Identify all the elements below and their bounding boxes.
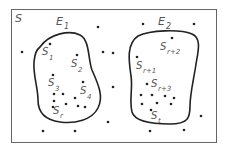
svg-text:r+1: r+1 bbox=[143, 67, 156, 75]
svg-text:r+2: r+2 bbox=[167, 48, 181, 56]
venn-diagram: S E 1 E 2 S1 S2 S3 S4 Sr bbox=[0, 0, 231, 147]
e1-points bbox=[49, 43, 87, 109]
svg-text:S: S bbox=[53, 105, 60, 116]
svg-text:S: S bbox=[71, 58, 78, 69]
svg-text:S: S bbox=[136, 60, 143, 71]
svg-text:E: E bbox=[56, 15, 63, 28]
sample-space-label: S bbox=[15, 12, 22, 25]
svg-text:t: t bbox=[158, 117, 161, 125]
sample-space-frame bbox=[12, 10, 217, 143]
svg-text:S: S bbox=[42, 46, 49, 57]
event-e2-label: E 2 bbox=[158, 15, 171, 31]
svg-text:3: 3 bbox=[55, 85, 59, 93]
svg-text:2: 2 bbox=[166, 22, 171, 31]
svg-text:2: 2 bbox=[78, 66, 83, 74]
svg-text:1: 1 bbox=[49, 54, 53, 62]
svg-text:r: r bbox=[60, 112, 64, 120]
svg-text:S: S bbox=[151, 78, 158, 89]
svg-text:S: S bbox=[48, 77, 55, 88]
svg-text:E: E bbox=[158, 15, 165, 28]
svg-text:S: S bbox=[80, 85, 87, 96]
e1-point-labels: S1 S2 S3 S4 Sr bbox=[42, 46, 91, 120]
svg-text:r+3: r+3 bbox=[158, 85, 171, 93]
svg-text:S: S bbox=[151, 110, 158, 121]
svg-text:S: S bbox=[160, 41, 167, 52]
svg-text:1: 1 bbox=[64, 22, 69, 31]
svg-text:4: 4 bbox=[87, 93, 91, 101]
event-e1-label: E 1 bbox=[56, 15, 69, 31]
e2-point-labels: Sr+2 Sr+1 Sr+3 St bbox=[136, 41, 181, 125]
